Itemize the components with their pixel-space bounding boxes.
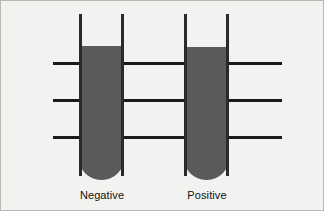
tube-negative-fill — [79, 46, 124, 180]
tube-negative-wall-right — [121, 14, 124, 176]
tube-positive-label: Positive — [147, 189, 267, 201]
tube-positive-wall-right — [226, 14, 229, 176]
tube-positive-wall-left — [184, 14, 187, 176]
tube-positive-fill — [184, 47, 229, 180]
tube-negative-wall-left — [79, 14, 82, 176]
tube-negative — [79, 14, 124, 180]
test-tube-diagram: Negative Positive — [0, 0, 324, 211]
tube-positive — [184, 14, 229, 180]
tube-negative-label: Negative — [42, 189, 162, 201]
